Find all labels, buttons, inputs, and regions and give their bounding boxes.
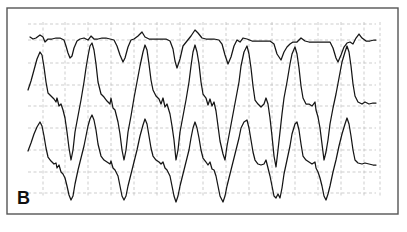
panel-label: B (17, 189, 30, 207)
waveform-figure (0, 0, 407, 232)
